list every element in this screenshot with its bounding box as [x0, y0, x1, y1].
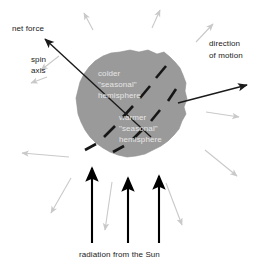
direction-label-line1: direction: [209, 38, 243, 50]
direction-of-motion-arrow: [178, 85, 247, 103]
warmer-label-line3: hemisphere: [119, 134, 162, 145]
warmer-hemisphere-label: warmer "seasonal" hemisphere: [119, 112, 162, 145]
thermal-arrow-lower-right: [205, 150, 237, 176]
thermal-arrow-up-left-top: [84, 13, 93, 30]
solar-radiation-arrows: [92, 168, 159, 243]
thermal-arrow-lower-left: [22, 153, 69, 157]
colder-label-line1: colder: [98, 68, 141, 79]
net-force-label: net force: [12, 24, 44, 34]
colder-hemisphere-label: colder "seasonal" hemisphere: [98, 68, 141, 101]
thermal-arrow-down-center: [105, 182, 112, 230]
spin-axis-label-line1: spin: [31, 54, 46, 65]
colder-label-line3: hemisphere: [98, 90, 141, 101]
direction-label-line2: of motion: [209, 50, 243, 62]
warmer-label-line1: warmer: [119, 112, 162, 123]
warmer-label-line2: "seasonal": [119, 123, 162, 134]
thermal-arrow-down-left: [51, 178, 71, 213]
colder-label-line2: "seasonal": [98, 79, 141, 90]
direction-of-motion-label: direction of motion: [209, 38, 243, 62]
thermal-arrow-down-right: [166, 183, 182, 225]
diagram-canvas: net force spin axis direction of motion …: [0, 0, 263, 270]
thermal-arrow-right: [206, 112, 239, 117]
spin-axis-label-line2: axis: [31, 65, 46, 76]
solar-radiation-label: radiation from the Sun: [79, 250, 160, 260]
thermal-arrow-left: [31, 77, 47, 83]
spin-axis-label: spin axis: [31, 54, 46, 76]
thermal-arrow-up-right-top: [152, 10, 160, 28]
